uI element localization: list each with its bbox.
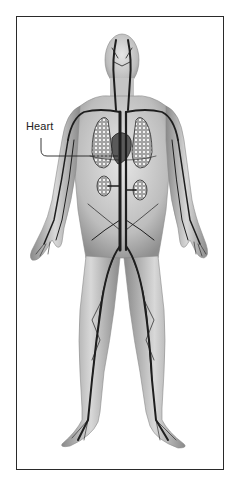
circulatory-system-illustration <box>0 0 234 486</box>
heart-label: Heart <box>26 120 53 132</box>
right-leg <box>124 256 185 448</box>
left-leg <box>62 256 120 447</box>
torso <box>72 96 173 258</box>
